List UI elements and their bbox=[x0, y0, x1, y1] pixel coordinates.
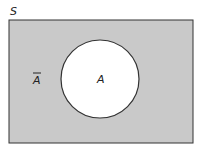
venn-diagram: S A A bbox=[0, 0, 204, 148]
set-a-label: A bbox=[96, 73, 105, 86]
complement-label: A bbox=[32, 74, 41, 87]
sample-space-label: S bbox=[10, 5, 17, 18]
